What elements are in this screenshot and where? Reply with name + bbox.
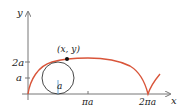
cycloid-diagram: y x 2a a πa 2πa (x, y) a xyxy=(0,0,184,108)
point-marker xyxy=(65,57,69,61)
radius-label: a xyxy=(57,81,62,91)
tick-label-2a: 2a xyxy=(11,57,24,68)
cycloid-curve xyxy=(28,58,160,94)
tick-label-pi-a: πa xyxy=(81,97,93,107)
tick-label-2pi-a: 2πa xyxy=(138,97,156,107)
y-axis-label: y xyxy=(16,7,23,18)
tick-label-a: a xyxy=(16,72,22,83)
point-label: (x, y) xyxy=(57,44,80,54)
x-axis-label: x xyxy=(171,95,177,106)
